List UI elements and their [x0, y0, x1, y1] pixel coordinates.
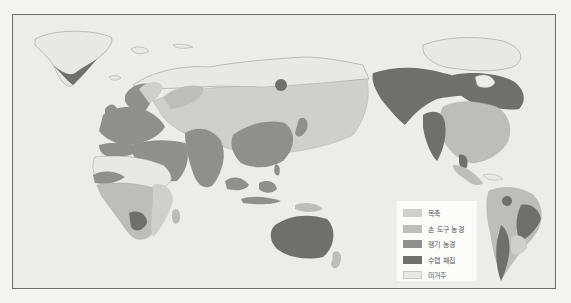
australia-hunting	[271, 216, 334, 259]
legend-item-uninhabited: 미거주	[403, 268, 471, 282]
new-guinea	[295, 203, 323, 212]
north-america-hand-tool	[440, 102, 510, 163]
swatch-hunting	[403, 256, 422, 264]
legend-item-hunting: 수렵 채집	[403, 253, 471, 267]
map-frame: 목축 손 도구 농경 쟁기 농경 수렵 채집 미거주	[12, 14, 556, 289]
legend-item-plow: 쟁기 농경	[403, 237, 471, 251]
legend-label: 쟁기 농경	[428, 239, 455, 249]
novaya-zemlya	[173, 44, 193, 48]
legend-item-pastoral: 목축	[403, 206, 471, 220]
legend-label: 목축	[428, 208, 440, 218]
central-america	[453, 165, 483, 185]
legend: 목축 손 도구 농경 쟁기 농경 수렵 채집 미거주	[397, 201, 477, 281]
swatch-hand-tool	[403, 225, 422, 233]
legend-label: 수렵 채집	[428, 255, 455, 265]
legend-label: 손 도구 농경	[428, 224, 464, 234]
swatch-plow	[403, 240, 422, 248]
south-asia-plow	[185, 129, 224, 188]
kamchatka-hunting	[275, 79, 287, 91]
swatch-pastoral	[403, 209, 422, 217]
southeast-asia	[225, 178, 249, 191]
svalbard	[131, 47, 149, 54]
west-coast-hunting	[423, 112, 446, 161]
legend-label: 미거주	[428, 270, 447, 280]
indonesia-1	[241, 197, 281, 204]
caribbean	[483, 174, 503, 180]
swatch-uninhabited	[403, 271, 422, 279]
south-america-hand-tool	[487, 188, 541, 277]
amazon-hunting	[502, 196, 512, 206]
east-africa-pastoral	[151, 184, 173, 237]
new-zealand	[332, 252, 341, 268]
philippines	[274, 165, 280, 176]
madagascar	[172, 209, 179, 223]
legend-item-hand-tool: 손 도구 농경	[403, 222, 471, 236]
borneo	[259, 181, 277, 193]
canada-arctic	[423, 38, 521, 71]
iceland	[109, 76, 121, 81]
